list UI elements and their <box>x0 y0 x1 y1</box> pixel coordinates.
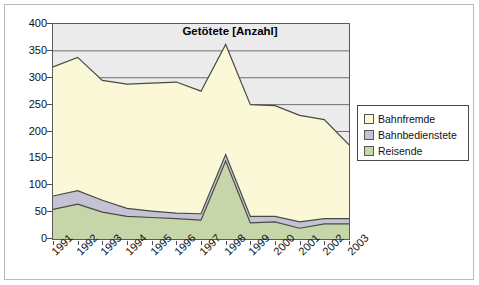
chart-legend: BahnfremdeBahnbediensteteReisende <box>357 105 469 161</box>
legend-swatch-icon <box>364 130 374 140</box>
y-axis-tick-label: 350 <box>13 45 47 55</box>
legend-item: Reisende <box>364 143 468 159</box>
y-axis-tick-mark <box>47 50 52 51</box>
area-chart-svg <box>53 24 349 239</box>
legend-swatch-icon <box>364 114 374 124</box>
y-axis-tick-label: 200 <box>13 126 47 136</box>
y-axis-tick-mark <box>47 157 52 158</box>
legend-swatch-icon <box>364 146 374 156</box>
y-axis-tick-mark <box>47 23 52 24</box>
y-axis-tick-mark <box>47 238 52 239</box>
y-axis-tick-label: 300 <box>13 72 47 82</box>
y-axis-tick-label: 400 <box>13 18 47 28</box>
y-axis-tick-mark <box>47 211 52 212</box>
y-axis-tick-label: 0 <box>13 233 47 243</box>
chart-frame: 050100150200250300350400 Getötete [Anzah… <box>4 4 474 280</box>
chart-title: Getötete [Anzahl] <box>155 25 305 37</box>
legend-item-label: Reisende <box>378 145 422 157</box>
legend-item-label: Bahnfremde <box>378 113 435 125</box>
y-axis-tick-mark <box>47 104 52 105</box>
legend-item-label: Bahnbedienstete <box>378 129 457 141</box>
x-axis: 1991199219931994199519961997199819992000… <box>52 241 352 285</box>
y-axis-tick-label: 50 <box>13 206 47 216</box>
y-axis-tick-mark <box>47 77 52 78</box>
legend-item: Bahnfremde <box>364 111 468 127</box>
y-axis: 050100150200250300350400 <box>9 5 47 258</box>
y-axis-tick-mark <box>47 131 52 132</box>
legend-item: Bahnbedienstete <box>364 127 468 143</box>
y-axis-tick-mark <box>47 184 52 185</box>
y-axis-tick-label: 150 <box>13 152 47 162</box>
plot-area <box>52 23 350 240</box>
y-axis-tick-label: 250 <box>13 99 47 109</box>
y-axis-tick-label: 100 <box>13 179 47 189</box>
